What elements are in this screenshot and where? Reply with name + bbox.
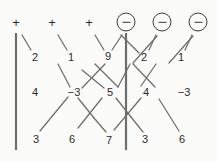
- connector-line: [94, 118, 106, 132]
- node-value-label: 3: [33, 134, 39, 145]
- connector-line: [121, 35, 139, 53]
- circled-minus-icon: [153, 13, 172, 32]
- minus-bar: [122, 21, 130, 22]
- circled-minus-icon: [117, 13, 136, 32]
- connector-line: [118, 64, 130, 87]
- plus-sign-icon: +: [48, 16, 56, 29]
- circled-minus-icon: [189, 13, 208, 32]
- connector-line: [82, 64, 105, 88]
- node-value-label: 6: [69, 134, 75, 145]
- node-value-label: 4: [143, 87, 149, 98]
- connector-line: [40, 97, 68, 131]
- node-value-label: 4: [32, 87, 38, 98]
- node-value-label: −3: [178, 87, 191, 98]
- connector-line: [185, 35, 192, 50]
- node-value-label: 1: [178, 52, 184, 63]
- connector-line: [131, 117, 143, 132]
- connector-line: [133, 64, 155, 87]
- minus-bar: [158, 21, 166, 22]
- node-value-label: 7: [106, 135, 112, 146]
- connector-line: [58, 35, 67, 50]
- plus-sign-icon: +: [12, 16, 20, 29]
- connector-line: [58, 64, 70, 87]
- node-value-label: 3: [142, 134, 148, 145]
- connector-line: [78, 98, 94, 118]
- node-value-label: 9: [105, 51, 111, 62]
- diagram-canvas: +++ 219214−354−336736: [0, 0, 217, 161]
- node-value-label: 5: [107, 87, 113, 98]
- connector-line: [159, 99, 179, 131]
- connector-line: [112, 35, 122, 50]
- node-value-label: 1: [68, 52, 74, 63]
- node-value-label: 2: [141, 52, 147, 63]
- connector-line: [95, 35, 104, 50]
- node-value-label: −3: [68, 87, 81, 98]
- connector-line: [116, 98, 131, 117]
- node-value-label: 2: [32, 52, 38, 63]
- minus-bar: [194, 21, 202, 22]
- plus-sign-icon: +: [85, 16, 93, 29]
- connector-line: [149, 35, 156, 50]
- connector-line: [22, 35, 31, 50]
- node-value-label: 6: [179, 134, 185, 145]
